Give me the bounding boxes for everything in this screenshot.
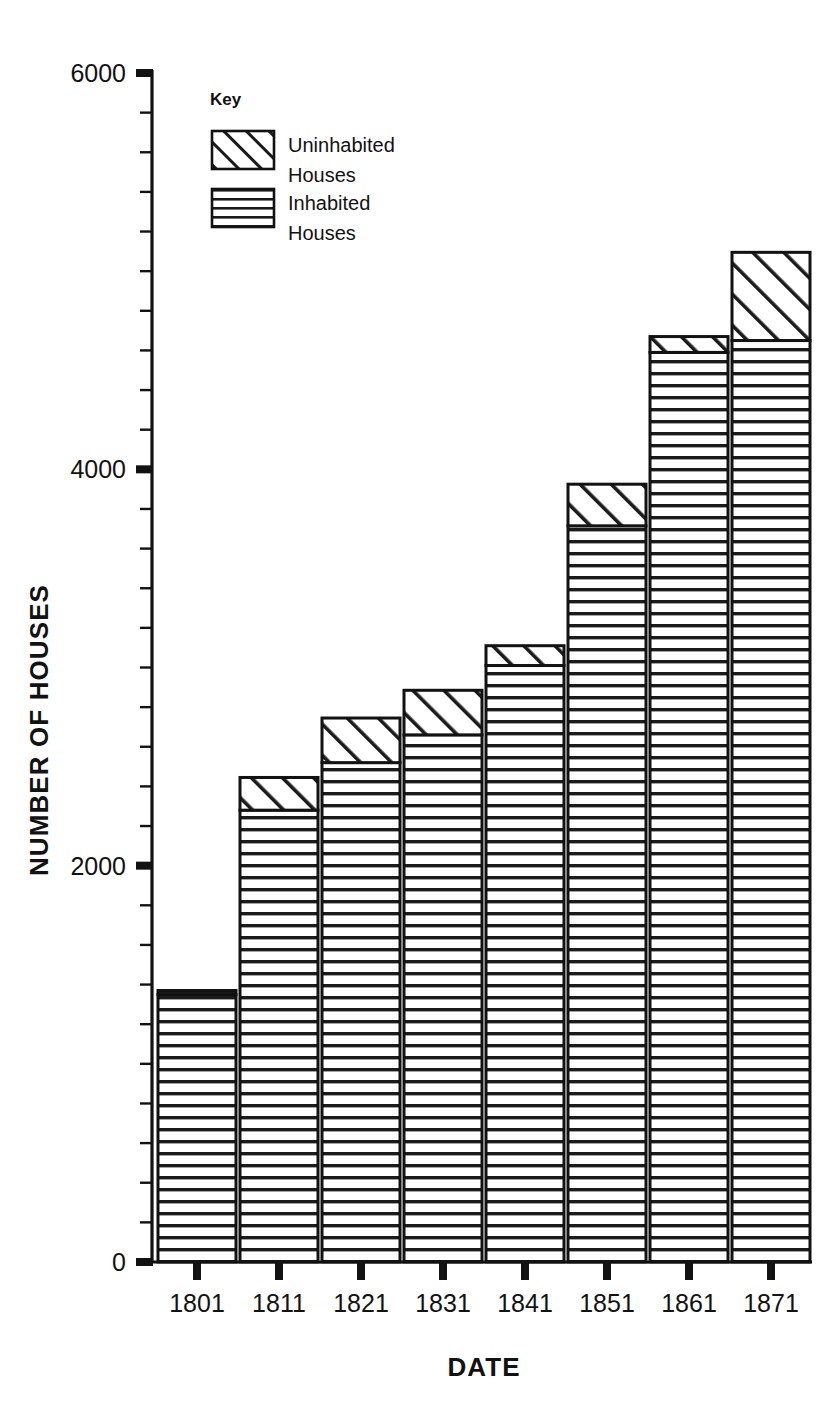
- y-tick-label-0: 0: [112, 1248, 126, 1276]
- x-tick-label-1811: 1811: [252, 1289, 306, 1317]
- y-tick-label-6000: 6000: [70, 59, 126, 87]
- bar-segment-inhabited-1811: [240, 810, 318, 1262]
- legend-label-uninhabited-line2: Houses: [288, 164, 356, 186]
- legend-swatch-inhabited: [212, 189, 274, 227]
- bar-segment-inhabited-1841: [486, 666, 564, 1262]
- bar-segment-inhabited-1831: [404, 735, 482, 1262]
- x-tick-label-1841: 1841: [497, 1289, 553, 1317]
- y-axis-tick-labels: 0200040006000: [70, 59, 126, 1276]
- x-axis-tick-labels: 18011811182118311841185118611871: [169, 1289, 799, 1317]
- bar-segment-uninhabited-1831: [404, 690, 482, 735]
- bar-segment-uninhabited-1861: [650, 337, 728, 353]
- bar-segment-uninhabited-1871: [732, 252, 810, 340]
- legend-swatch-uninhabited: [212, 131, 274, 169]
- x-tick-label-1801: 1801: [169, 1289, 225, 1317]
- bar-group-1851: [568, 484, 646, 1262]
- bar-group-1831: [404, 690, 482, 1262]
- x-tick-label-1861: 1861: [661, 1289, 717, 1317]
- bar-segment-uninhabited-1841: [486, 646, 564, 666]
- y-tick-label-2000: 2000: [70, 852, 126, 880]
- house-statistics-bar-chart: 0200040006000 18011811182118311841185118…: [0, 0, 840, 1406]
- bar-segment-uninhabited-1801: [158, 991, 236, 995]
- x-tick-label-1821: 1821: [333, 1289, 389, 1317]
- bar-segment-inhabited-1861: [650, 352, 728, 1262]
- bar-group-1801: [158, 991, 236, 1262]
- legend-entry-inhabited: Inhabited Houses: [212, 189, 370, 244]
- y-axis-title: NUMBER OF HOUSES: [24, 584, 54, 876]
- bar-group-1871: [732, 252, 810, 1262]
- chart-legend: Key Uninhabited Houses Inhabited Houses: [210, 90, 395, 244]
- bar-segment-inhabited-1801: [158, 994, 236, 1262]
- bar-group-1821: [322, 718, 400, 1262]
- bar-segment-inhabited-1821: [322, 763, 400, 1262]
- bar-group-1861: [650, 337, 728, 1262]
- x-tick-label-1851: 1851: [579, 1289, 635, 1317]
- x-tick-label-1831: 1831: [415, 1289, 471, 1317]
- bar-segment-uninhabited-1851: [568, 484, 646, 526]
- bar-group-1811: [240, 777, 318, 1262]
- x-axis-title: DATE: [447, 1352, 520, 1382]
- legend-entry-uninhabited: Uninhabited Houses: [212, 131, 395, 186]
- legend-label-inhabited-line1: Inhabited: [288, 192, 370, 214]
- legend-label-uninhabited-line1: Uninhabited: [288, 134, 395, 156]
- bar-segment-inhabited-1851: [568, 526, 646, 1262]
- bar-segment-uninhabited-1821: [322, 718, 400, 763]
- bar-segment-inhabited-1871: [732, 341, 810, 1262]
- x-tick-label-1871: 1871: [743, 1289, 799, 1317]
- bar-segment-uninhabited-1811: [240, 777, 318, 810]
- chart-canvas: 0200040006000 18011811182118311841185118…: [0, 0, 840, 1406]
- legend-title: Key: [210, 90, 242, 109]
- bar-group-1841: [486, 646, 564, 1262]
- x-axis-ticks: [197, 1262, 771, 1280]
- bars-layer: [158, 252, 810, 1262]
- legend-label-inhabited-line2: Houses: [288, 222, 356, 244]
- y-tick-label-4000: 4000: [70, 455, 126, 483]
